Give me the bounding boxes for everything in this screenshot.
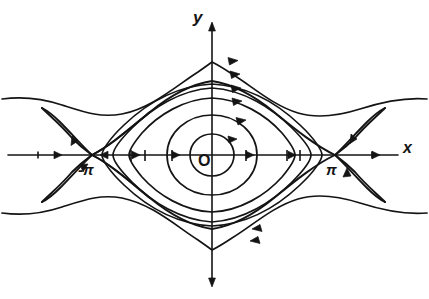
flow-arrow-x-axis-right <box>54 151 62 159</box>
equilibrium-label-neg-pi: -π <box>78 161 94 178</box>
flow-arrow-orbit-top-right <box>231 85 241 93</box>
flow-arrow-x-axis-right <box>372 151 380 159</box>
x-axis-label: x <box>403 139 412 157</box>
separatrix-upper-loop <box>92 81 335 155</box>
flow-arrow-orbit-bottom-left <box>250 237 260 244</box>
rotation-orbit-below <box>2 196 427 250</box>
phase-portrait-canvas <box>0 0 429 299</box>
flow-arrow-orbit-top-right <box>228 58 238 66</box>
y-axis-label: y <box>193 8 202 28</box>
origin-label: O <box>198 152 210 170</box>
flow-arrow-x-axis-right <box>132 151 140 159</box>
flow-arrow-x-axis-right <box>172 151 180 159</box>
y-axis-bottom-arrowhead <box>209 278 216 287</box>
flow-arrow-orbit-bottom-left <box>252 225 262 232</box>
flow-arrow-x-axis-right <box>246 151 254 159</box>
phase-portrait-figure: y x O -π π <box>0 0 429 299</box>
flow-arrow-x-axis-left <box>100 151 108 159</box>
separatrix-lower-loop <box>92 155 335 229</box>
flow-arrow-orbit-top-right <box>228 136 237 143</box>
rotation-orbit-above <box>2 62 427 116</box>
equilibrium-label-pos-pi: π <box>326 161 337 178</box>
y-axis-top-arrowhead <box>209 22 216 31</box>
